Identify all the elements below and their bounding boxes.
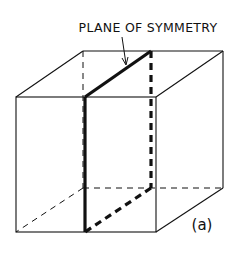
hidden-edges — [16, 51, 223, 232]
bottom-left-depth-edge — [16, 188, 83, 232]
plane-of-symmetry-label: PLANE OF SYMMETRY — [79, 20, 218, 35]
plane-top-edge — [85, 51, 151, 97]
plane-bottom-edge — [85, 188, 151, 232]
symmetry-plane — [85, 51, 151, 232]
bottom-right-depth-edge — [156, 188, 223, 232]
top-left-depth-edge — [16, 51, 83, 97]
cube-symmetry-diagram: PLANE OF SYMMETRY — [0, 0, 239, 254]
panel-label: (a) — [192, 216, 213, 234]
top-right-depth-edge — [156, 51, 223, 97]
visible-edges — [16, 51, 223, 232]
diagram-canvas: PLANE OF SYMMETRY — [0, 0, 239, 254]
